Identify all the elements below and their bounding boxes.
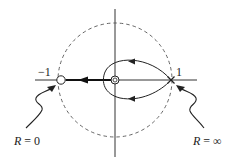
arrow-bottom-icon <box>128 96 135 102</box>
root-locus-diagram: −1 1 R = 0 R = ∞ <box>0 0 230 168</box>
pointer-right-arrowhead-icon <box>176 85 185 92</box>
annotation-r-infinity-value: = ∞ <box>200 134 221 148</box>
arrow-top-icon <box>128 59 135 65</box>
annotation-r-zero: R = 0 <box>13 134 40 148</box>
pointer-right-squiggle <box>180 88 204 128</box>
annotation-r-infinity: R = ∞ <box>192 134 222 148</box>
label-plus-one: 1 <box>176 65 182 79</box>
annotation-r-zero-value: = 0 <box>21 134 40 148</box>
label-minus-one: −1 <box>38 65 51 79</box>
arrow-left-icon <box>78 77 88 84</box>
origin-outer-marker <box>111 76 119 84</box>
pointer-left-arrowhead-icon <box>47 85 56 92</box>
point-minus-one-marker <box>57 76 65 84</box>
pointer-left-squiggle <box>26 88 52 128</box>
